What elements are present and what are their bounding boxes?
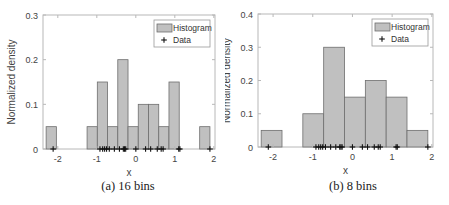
x-axis-label: x [127, 167, 132, 178]
histogram-chart-16-bins: 00.10.20.3-2-1012xNormalized densityHist… [0, 0, 225, 205]
y-tick-label: 0.2 [25, 55, 38, 65]
histogram-bar [386, 97, 407, 147]
histogram-bar [200, 127, 210, 149]
x-tick-label: 1 [390, 152, 395, 162]
histogram-bar [324, 47, 345, 147]
legend: HistogramData [154, 20, 212, 47]
legend-data-label: Data [391, 34, 409, 44]
y-tick-label: 0.1 [240, 109, 253, 119]
caption-16-bins: (a) 16 bins [101, 179, 154, 194]
histogram-bar [303, 114, 324, 147]
histogram-panel-8-bins: 00.10.20.30.4-2-1012xNormalized densityH… [225, 0, 449, 205]
y-tick-label: 0.4 [240, 10, 253, 20]
legend-histogram-label: Histogram [391, 22, 430, 32]
y-tick-label: 0 [248, 143, 253, 153]
histogram-bar [169, 82, 179, 149]
legend-histogram-swatch [157, 24, 172, 32]
histogram-chart-8-bins: 00.10.20.30.4-2-1012xNormalized densityH… [225, 0, 449, 205]
histogram-bar [261, 130, 282, 147]
x-tick-label: 0 [133, 154, 138, 164]
histogram-bar [108, 127, 118, 149]
histogram-bar [159, 127, 169, 149]
histogram-bars [261, 47, 428, 147]
histogram-bar [345, 97, 366, 147]
x-tick-label: 0 [350, 152, 355, 162]
histogram-bar [365, 81, 386, 148]
x-tick-label: -1 [309, 152, 317, 162]
histogram-bar [407, 130, 428, 147]
histogram-bars [46, 60, 210, 149]
histogram-bar [97, 82, 107, 149]
x-axis-label: x [343, 165, 348, 176]
x-tick-label: 2 [429, 152, 434, 162]
y-axis-label: Normalized density [6, 39, 17, 124]
x-tick-label: 2 [211, 154, 216, 164]
histogram-bar [128, 127, 138, 149]
legend-data-label: Data [173, 35, 191, 45]
legend-histogram-label: Histogram [173, 23, 212, 33]
caption-8-bins: (b) 8 bins [329, 179, 377, 194]
histogram-bar [149, 104, 159, 149]
histogram-bar [138, 104, 148, 149]
x-tick-label: -2 [54, 154, 62, 164]
histogram-bar [87, 127, 97, 149]
y-tick-label: 0.3 [25, 11, 38, 21]
histogram-panel-16-bins: 00.10.20.3-2-1012xNormalized densityHist… [0, 0, 225, 205]
histogram-bar [118, 60, 128, 149]
y-tick-label: 0.1 [25, 100, 38, 110]
y-tick-label: 0 [33, 145, 38, 155]
x-tick-label: -2 [269, 152, 277, 162]
histogram-bar [46, 127, 56, 149]
y-tick-label: 0.3 [240, 43, 253, 53]
y-tick-label: 0.2 [240, 76, 253, 86]
x-tick-label: 1 [172, 154, 177, 164]
legend: HistogramData [372, 19, 430, 46]
y-axis-label: Normalized density [225, 38, 232, 123]
x-tick-label: -1 [93, 154, 101, 164]
legend-histogram-swatch [375, 23, 390, 31]
